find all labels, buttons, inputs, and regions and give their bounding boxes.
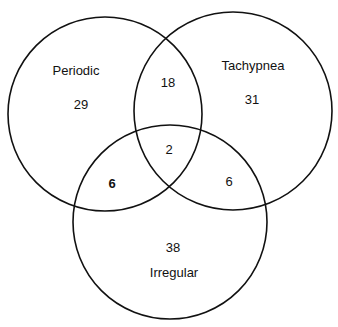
periodic-only-count: 29 [74, 98, 88, 111]
periodic-circle [8, 17, 202, 211]
tachypnea-circle [134, 12, 332, 210]
irregular-only-count: 38 [166, 241, 180, 254]
periodic-label: Periodic [53, 64, 100, 77]
periodic-irregular-count: 6 [108, 177, 115, 190]
tachypnea-label: Tachypnea [222, 59, 285, 72]
all-three-count: 2 [165, 143, 172, 156]
irregular-label: Irregular [150, 266, 198, 279]
periodic-tachypnea-count: 18 [161, 76, 175, 89]
tachypnea-only-count: 31 [245, 93, 259, 106]
tachypnea-irregular-count: 6 [225, 175, 232, 188]
